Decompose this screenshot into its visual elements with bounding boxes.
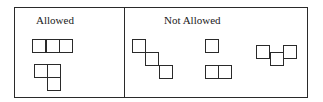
not-allowed-label: Not Allowed	[164, 15, 221, 26]
square-cell	[46, 39, 60, 53]
square-cell	[205, 65, 219, 79]
square-cell	[270, 52, 284, 66]
allowed-label: Allowed	[36, 15, 74, 26]
square-cell	[132, 39, 146, 53]
square-cell	[47, 64, 61, 78]
panel-divider	[124, 7, 125, 98]
square-cell	[59, 39, 73, 53]
square-cell	[218, 65, 232, 79]
square-cell	[283, 45, 297, 59]
square-cell	[205, 39, 219, 53]
square-cell	[34, 64, 48, 78]
square-cell	[159, 65, 173, 79]
square-cell	[145, 52, 159, 66]
square-cell	[32, 39, 46, 53]
square-cell	[256, 45, 270, 59]
square-cell	[47, 77, 61, 91]
